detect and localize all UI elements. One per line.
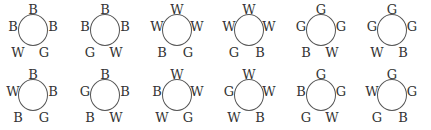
circle: [162, 79, 192, 111]
label-left: B: [294, 85, 308, 98]
label-bottom-right: B: [253, 46, 267, 59]
label-top: W: [242, 3, 256, 16]
circle: [377, 79, 407, 111]
label-top: G: [385, 68, 399, 81]
label-top: B: [26, 3, 40, 16]
circle: [234, 14, 264, 46]
circle: [90, 14, 120, 46]
label-bottom-left: G: [370, 111, 384, 124]
label-bottom-right: W: [109, 46, 123, 59]
label-top: W: [170, 68, 184, 81]
label-bottom-left: B: [11, 111, 25, 124]
label-right: W: [190, 85, 204, 98]
circle-diagram-8: B G B B W: [72, 65, 144, 130]
label-bottom-right: B: [396, 46, 410, 59]
label-right: B: [46, 85, 60, 98]
label-bottom-left: G: [227, 46, 241, 59]
label-top: G: [385, 3, 399, 16]
circle-diagram-2: B B B G W: [72, 0, 144, 65]
label-bottom-left: W: [370, 46, 384, 59]
label-left: W: [6, 85, 20, 98]
label-bottom-right: B: [253, 111, 267, 124]
label-right: B: [118, 20, 132, 33]
label-top: W: [170, 3, 184, 16]
label-top: B: [98, 68, 112, 81]
circle: [162, 14, 192, 46]
label-right: B: [118, 85, 132, 98]
label-left: W: [150, 20, 164, 33]
label-right: G: [405, 85, 419, 98]
label-bottom-right: G: [37, 46, 51, 59]
circle: [90, 79, 120, 111]
label-left: G: [222, 85, 236, 98]
circle: [234, 79, 264, 111]
label-bottom-left: G: [299, 111, 313, 124]
circle-diagram-12: G W G G B: [359, 65, 431, 130]
label-bottom-right: B: [396, 111, 410, 124]
circle: [377, 14, 407, 46]
label-bottom-left: G: [83, 46, 97, 59]
label-left: G: [294, 20, 308, 33]
label-left: G: [365, 20, 379, 33]
label-left: W: [222, 20, 236, 33]
circle-diagram-7: B W B B G: [0, 65, 72, 130]
label-bottom-left: W: [227, 111, 241, 124]
label-right: W: [262, 85, 276, 98]
circle-diagram-6: G G G W B: [359, 0, 431, 65]
label-left: B: [78, 20, 92, 33]
circle: [18, 79, 48, 111]
circle: [18, 14, 48, 46]
label-left: G: [78, 85, 92, 98]
circle-diagram-4: W W W G B: [216, 0, 288, 65]
label-right: W: [262, 20, 276, 33]
label-right: G: [334, 20, 348, 33]
label-left: B: [150, 85, 164, 98]
label-bottom-right: G: [181, 111, 195, 124]
label-top: G: [314, 3, 328, 16]
label-bottom-left: W: [155, 111, 169, 124]
label-bottom-right: W: [325, 46, 339, 59]
circle-diagram-5: G G G B W: [288, 0, 360, 65]
label-bottom-left: B: [155, 46, 169, 59]
label-right: B: [46, 20, 60, 33]
label-right: W: [190, 20, 204, 33]
label-bottom-left: B: [83, 111, 97, 124]
label-bottom-right: G: [181, 46, 195, 59]
label-bottom-right: W: [325, 111, 339, 124]
label-left: W: [365, 85, 379, 98]
label-top: B: [26, 68, 40, 81]
label-top: W: [242, 68, 256, 81]
circle: [306, 14, 336, 46]
label-bottom-right: W: [109, 111, 123, 124]
circle-diagram-9: W B W W G: [144, 65, 216, 130]
label-right: G: [405, 20, 419, 33]
label-right: G: [334, 85, 348, 98]
label-bottom-right: G: [37, 111, 51, 124]
label-bottom-left: W: [11, 46, 25, 59]
label-left: B: [6, 20, 20, 33]
circle-diagram-10: W G W W B: [216, 65, 288, 130]
circle: [306, 79, 336, 111]
label-top: B: [98, 3, 112, 16]
circle-diagram-11: G B G G W: [288, 65, 360, 130]
circle-diagram-1: B B B W G: [0, 0, 72, 65]
circle-diagram-3: W W W B G: [144, 0, 216, 65]
label-top: G: [314, 68, 328, 81]
label-bottom-left: B: [299, 46, 313, 59]
